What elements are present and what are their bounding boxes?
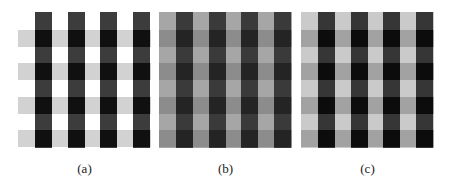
intersection-cell (274, 97, 291, 114)
intersection-cell (133, 63, 150, 80)
intersection-cell (35, 63, 52, 80)
intersection-cell (176, 130, 193, 147)
intersection-cell (416, 130, 433, 147)
intersection-cell (383, 97, 400, 114)
panel-label-c: (c) (348, 161, 388, 177)
intersection-cell (100, 97, 117, 114)
intersection-cell (383, 30, 400, 47)
intersection-cell (318, 97, 335, 114)
intersection-cell (351, 30, 368, 47)
checker-panel-c (301, 12, 434, 148)
intersection-cell (133, 97, 150, 114)
intersection-cell (35, 130, 52, 147)
intersection-cell (416, 30, 433, 47)
intersection-cell (68, 97, 85, 114)
intersection-cell (351, 97, 368, 114)
intersection-cell (68, 130, 85, 147)
panel-label-a: (a) (65, 161, 105, 177)
intersection-cell (209, 130, 226, 147)
checker-panel-a (18, 12, 151, 148)
intersection-cell (351, 130, 368, 147)
intersection-cell (416, 97, 433, 114)
intersection-cell (209, 63, 226, 80)
intersection-cell (209, 30, 226, 47)
intersection-cell (241, 63, 258, 80)
intersection-cell (351, 63, 368, 80)
intersection-cell (68, 63, 85, 80)
panel-label-b: (b) (206, 161, 246, 177)
intersection-cell (176, 63, 193, 80)
intersection-cell (416, 63, 433, 80)
intersection-cell (100, 30, 117, 47)
checker-panel-b (159, 12, 292, 148)
intersection-cell (176, 30, 193, 47)
intersection-cell (35, 97, 52, 114)
intersection-cell (209, 97, 226, 114)
intersection-cell (35, 30, 52, 47)
intersection-cell (68, 30, 85, 47)
intersection-cell (133, 30, 150, 47)
intersection-cell (241, 97, 258, 114)
intersection-cell (318, 63, 335, 80)
intersection-cell (274, 30, 291, 47)
intersection-cell (133, 130, 150, 147)
intersection-cell (100, 63, 117, 80)
intersection-cell (274, 130, 291, 147)
intersection-cell (318, 130, 335, 147)
intersection-cell (241, 30, 258, 47)
intersection-cell (383, 130, 400, 147)
intersection-cell (241, 130, 258, 147)
intersection-cell (100, 130, 117, 147)
intersection-cell (383, 63, 400, 80)
intersection-cell (318, 30, 335, 47)
intersection-cell (274, 63, 291, 80)
intersection-cell (176, 97, 193, 114)
